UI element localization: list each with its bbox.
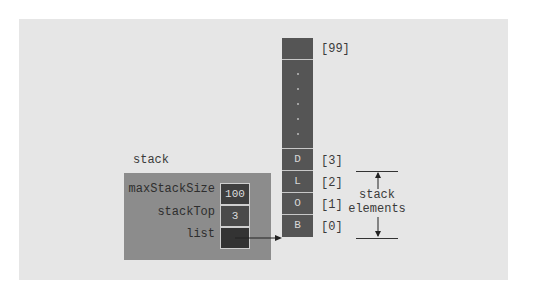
arrow-down-icon: [372, 217, 384, 238]
array-cell-99: [282, 38, 313, 60]
ellipsis-dot-icon: [297, 118, 299, 120]
array-cell-3: D: [282, 149, 313, 171]
struct-title: stack: [133, 153, 169, 167]
list-pointer-arrow-icon: [235, 232, 285, 244]
field-value-stacktop: 3: [220, 205, 250, 227]
annotation-line1: stack: [346, 188, 408, 202]
field-label-stacktop: stackTop: [157, 205, 215, 219]
field-label-list: list: [186, 227, 215, 241]
field-label-maxstacksize: maxStackSize: [129, 182, 215, 196]
index-label-0: [0]: [321, 220, 343, 234]
ellipsis-dot-icon: [297, 103, 299, 105]
index-label-2: [2]: [321, 176, 343, 190]
stack-elements-label: stack elements: [346, 188, 408, 216]
index-label-3: [3]: [321, 154, 343, 168]
array-cell-2: L: [282, 171, 313, 193]
bracket-bottom-line: [356, 238, 398, 239]
stack-struct-box: maxStackSize 100 stackTop 3 list: [124, 173, 271, 260]
array-ellipsis: [282, 60, 313, 149]
ellipsis-dot-icon: [297, 133, 299, 135]
array-cell-0: B: [282, 215, 313, 237]
index-label-1: [1]: [321, 198, 343, 212]
annotation-line2: elements: [346, 202, 408, 216]
ellipsis-dot-icon: [297, 73, 299, 75]
index-label-99: [99]: [321, 42, 350, 56]
field-value-maxstacksize: 100: [220, 183, 250, 205]
array-cell-1: O: [282, 193, 313, 215]
ellipsis-dot-icon: [297, 88, 299, 90]
